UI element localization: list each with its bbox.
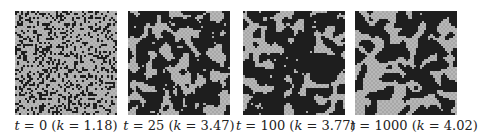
t-value: 1000: [374, 118, 407, 133]
caption-t100: t = 100 (k = 3.77): [236, 117, 354, 134]
lattice-panel-t0: [15, 11, 117, 115]
k-symbol: k: [56, 118, 64, 133]
k-value: 3.77: [322, 118, 351, 133]
k-symbol: k: [417, 118, 425, 133]
t-value: 100: [260, 118, 285, 133]
k-symbol: k: [294, 118, 302, 133]
lattice-panel-t25: [128, 11, 230, 115]
k-value: 4.02: [444, 118, 473, 133]
t-symbol: t: [123, 118, 128, 133]
caption-t0: t = 0 (k = 1.18): [10, 117, 122, 134]
k-symbol: k: [174, 118, 182, 133]
caption-t25: t = 25 (k = 3.47): [120, 117, 238, 134]
caption-t1000: t = 1000 (k = 4.02): [350, 117, 472, 134]
t-symbol: t: [350, 118, 355, 133]
t-value: 0: [39, 118, 47, 133]
k-value: 3.47: [201, 118, 230, 133]
lattice-canvas: [243, 11, 345, 115]
lattice-canvas: [15, 11, 117, 115]
t-value: 25: [148, 118, 165, 133]
lattice-panel-t1000: [355, 11, 457, 115]
k-value: 1.18: [83, 118, 112, 133]
lattice-canvas: [355, 11, 457, 115]
t-symbol: t: [15, 118, 20, 133]
t-symbol: t: [236, 118, 241, 133]
lattice-canvas: [128, 11, 230, 115]
lattice-panel-t100: [243, 11, 345, 115]
